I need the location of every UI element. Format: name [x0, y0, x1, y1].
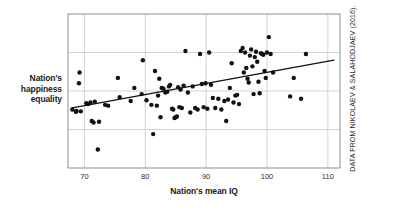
- data-point: [242, 70, 246, 74]
- x-tick-labels: 708090100110: [80, 172, 334, 181]
- data-point: [149, 103, 153, 107]
- data-point: [292, 76, 296, 80]
- data-point: [155, 103, 159, 107]
- data-point: [97, 120, 101, 124]
- data-point: [231, 100, 235, 104]
- data-point: [235, 93, 239, 97]
- data-point: [264, 76, 268, 80]
- data-point: [254, 50, 258, 54]
- data-point: [243, 50, 247, 54]
- data-point: [257, 91, 261, 95]
- figure-container: 708090100110 Nation's happiness equality…: [0, 0, 403, 208]
- data-point: [96, 147, 100, 151]
- data-point: [261, 53, 265, 57]
- data-point: [186, 90, 190, 94]
- x-tick-label: 80: [141, 172, 149, 181]
- data-point: [228, 86, 232, 90]
- data-point: [183, 49, 187, 53]
- x-tick-label: 100: [261, 172, 274, 181]
- data-point: [247, 80, 251, 84]
- data-point: [171, 107, 175, 111]
- data-point: [153, 69, 157, 73]
- data-point: [229, 61, 233, 65]
- data-point: [256, 80, 260, 84]
- data-point: [237, 102, 241, 106]
- data-point: [244, 66, 248, 70]
- data-point: [267, 35, 271, 39]
- data-source-credit: DATA FROM NIKOLAEV & SALAHODJAEV (2016).: [349, 0, 356, 189]
- data-point: [156, 93, 160, 97]
- data-point: [255, 60, 259, 64]
- data-point: [151, 132, 155, 136]
- data-point: [216, 97, 220, 101]
- data-point: [245, 76, 249, 80]
- data-point: [91, 120, 95, 124]
- data-point: [106, 103, 110, 107]
- data-point: [141, 58, 145, 62]
- data-point: [198, 52, 202, 56]
- data-point: [195, 107, 199, 111]
- x-tick-label: 70: [80, 172, 88, 181]
- data-point: [251, 92, 255, 96]
- data-point: [250, 64, 254, 68]
- y-axis-title-line-2: happiness: [2, 84, 62, 95]
- data-point: [79, 109, 83, 113]
- data-point: [299, 97, 303, 101]
- data-point: [161, 86, 165, 90]
- data-point: [248, 53, 252, 57]
- data-point: [205, 107, 209, 111]
- data-point: [132, 86, 136, 90]
- y-axis-title: Nation's happiness equality: [2, 73, 62, 105]
- data-point: [207, 50, 211, 54]
- x-tick-label: 110: [322, 172, 334, 181]
- data-point: [74, 109, 78, 113]
- y-axis-title-line-1: Nation's: [2, 73, 62, 84]
- x-tick-label: 90: [202, 172, 210, 181]
- data-point: [128, 99, 132, 103]
- data-point: [288, 94, 292, 98]
- y-axis-title-line-3: equality: [2, 94, 62, 105]
- data-point: [77, 70, 81, 74]
- x-axis-title: Nation's mean IQ: [68, 186, 340, 196]
- data-point: [168, 83, 172, 87]
- data-point: [224, 119, 228, 123]
- data-point: [157, 76, 161, 80]
- data-point: [188, 110, 192, 114]
- data-point: [144, 98, 148, 102]
- data-point: [116, 76, 120, 80]
- data-point: [226, 97, 230, 101]
- data-point: [240, 46, 244, 50]
- data-point: [213, 106, 217, 110]
- data-point: [175, 114, 179, 118]
- data-point: [249, 47, 253, 51]
- data-point: [180, 106, 184, 110]
- data-point: [211, 96, 215, 100]
- data-point: [268, 52, 272, 56]
- data-point: [158, 115, 162, 119]
- data-point: [219, 107, 223, 111]
- data-point: [304, 52, 308, 56]
- data-point: [253, 55, 257, 59]
- data-point: [77, 81, 81, 85]
